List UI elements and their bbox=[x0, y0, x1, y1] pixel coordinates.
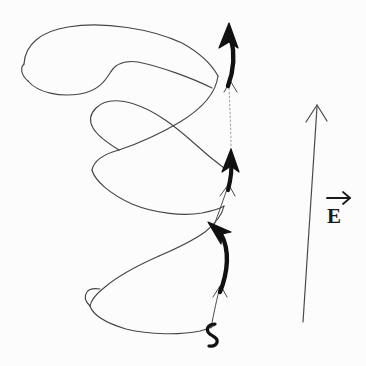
figure-root: E bbox=[0, 0, 366, 366]
paper-background bbox=[0, 0, 366, 366]
figure-canvas bbox=[0, 0, 366, 366]
electric-field-label: E bbox=[327, 206, 341, 227]
